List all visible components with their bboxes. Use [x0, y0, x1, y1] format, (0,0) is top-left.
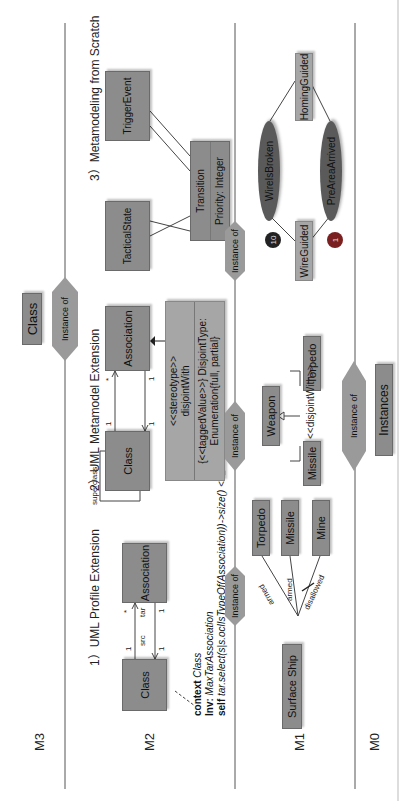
- stereotype-name: disjointWith: [180, 302, 192, 480]
- armed-label: armed: [285, 578, 294, 601]
- surface-ship-box: Surface Ship: [282, 644, 302, 729]
- m3-class-box: Class: [22, 293, 42, 345]
- instance-of-label: Instance of: [230, 414, 240, 458]
- m1-m0-instance-of-arrow: Instance of: [342, 361, 366, 471]
- ocl-val: MaxTarAssociation: [204, 611, 215, 695]
- section-metamodeling-scratch: 3）Metamodeling from Scratch: [85, 16, 102, 181]
- disallowed-label: disallowed: [303, 573, 327, 611]
- metamodel-association-box: Association: [105, 306, 150, 371]
- tactical-state-box: TacticalState: [105, 201, 150, 271]
- tagged-value-label: {<<taggedValue>>} DisjointType:: [197, 302, 209, 480]
- level-m3-label: M3: [32, 733, 47, 751]
- stereotype-name-compartment: <<stereotype>> disjointWith: [166, 302, 195, 480]
- wire-is-broken-event: WireIsBroken: [258, 121, 280, 221]
- missile-subclass-box: Missile: [303, 441, 321, 486]
- wire-guided-state: WireGuided: [295, 221, 313, 281]
- mof-layer-diagram: M3 M2 M1 M0 Class Instance of 1）UML Prof…: [0, 0, 411, 801]
- missile-box: Missile: [281, 500, 299, 556]
- superclass-label: superclass: [90, 467, 99, 505]
- src-role-label: src: [138, 635, 147, 646]
- ocl-val: Class: [192, 653, 203, 678]
- instance-of-label: Instance of: [230, 574, 240, 618]
- ocl-kw: self: [216, 699, 227, 716]
- section-uml-profile: 1）UML Profile Extension: [85, 529, 102, 666]
- instances-box: Instances: [375, 364, 393, 456]
- tagged-value-type: Enumeration{full, partial}: [209, 302, 221, 480]
- profile-class-box: Class: [122, 659, 167, 711]
- ocl-kw: Inv:: [204, 698, 215, 716]
- m2-m1-instance-of-arrow-3: Instance of: [225, 221, 245, 281]
- torpedo-box: Torpedo: [252, 500, 270, 556]
- level-m0-label: M0: [367, 733, 382, 751]
- ocl-constraint: context Class Inv: MaxTarAssociation sel…: [192, 470, 228, 716]
- stereotype-label: <<stereotype>>: [168, 302, 180, 480]
- tar-role-label: tar: [138, 608, 147, 617]
- transition-name: Transition: [191, 142, 211, 240]
- ocl-kw: context: [192, 680, 203, 716]
- mult: 1: [104, 422, 113, 426]
- mult: 1: [124, 647, 133, 651]
- instance-of-label: Instance of: [60, 297, 70, 341]
- priority-1-badge: 1: [327, 232, 343, 248]
- stereotype-disjointwith-box: <<stereotype>> disjointWith {<<taggedVal…: [165, 301, 225, 481]
- transition-box: Transition Priority: Integer: [190, 141, 230, 241]
- priority-10-badge: 10: [265, 232, 281, 248]
- mult: *: [104, 378, 113, 381]
- level-m2-label: M2: [142, 733, 157, 751]
- disjointwith-label: <<disjointWith>>: [305, 365, 316, 440]
- homing-guided-state: HomingGuided: [295, 53, 313, 121]
- mult: 1: [157, 609, 166, 613]
- mult: 1: [147, 377, 156, 381]
- m3-m2-instance-of-arrow: Instance of: [52, 277, 78, 361]
- m2-m1-instance-of-arrow-1: Instance of: [225, 401, 245, 471]
- tagged-value-compartment: {<<taggedValue>>} DisjointType: Enumerat…: [195, 302, 224, 480]
- instance-of-label: Instance of: [230, 229, 240, 273]
- armed-label: armed: [257, 583, 276, 607]
- profile-association-box: Association: [122, 543, 167, 603]
- mult: 1: [157, 647, 166, 651]
- mine-box: Mine: [312, 500, 330, 556]
- weapon-box: Weapon: [262, 386, 280, 446]
- pre-area-arrived-event: PreAreaArrived: [320, 121, 342, 221]
- instance-of-label: Instance of: [349, 394, 359, 438]
- mult: *: [122, 610, 131, 613]
- mult: 1: [147, 422, 156, 426]
- trigger-event-box: TriggerEvent: [105, 71, 150, 141]
- level-m1-label: M1: [292, 733, 307, 751]
- metamodel-class-box: Class: [105, 431, 150, 491]
- m2-m1-instance-of-arrow-2: Instance of: [225, 566, 245, 626]
